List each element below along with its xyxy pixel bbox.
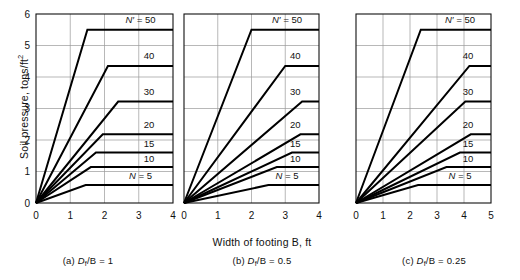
curve-label: 15: [290, 138, 301, 149]
curve-label: N = 5: [448, 170, 471, 181]
caption-symbol-a: D: [78, 255, 85, 266]
curve-label: 15: [144, 138, 155, 149]
curve-label: N′ = 50: [445, 14, 475, 25]
x-tick-label: 0: [33, 210, 39, 221]
curve-label: 20: [290, 119, 301, 130]
curve-label: N′ = 50: [125, 14, 155, 25]
x-tick-label: 3: [434, 210, 440, 221]
curve-label: N′ = 50: [272, 14, 302, 25]
x-tick-label: 1: [67, 210, 73, 221]
x-tick-label: 3: [136, 210, 142, 221]
plot-area-b: N′ = 504030201510N = 501234: [176, 0, 348, 232]
x-tick-label: 4: [461, 210, 467, 221]
x-tick-label: 0: [353, 210, 359, 221]
x-tick-label: 4: [316, 210, 322, 221]
x-tick-label: 5: [488, 210, 494, 221]
y-tick-label: 6: [24, 9, 30, 20]
chart-panel-c: N′ = 504030201510N = 5012345 (c) Df/B = …: [348, 0, 520, 280]
curve-label: 40: [290, 50, 301, 61]
curve-label: N = 5: [129, 170, 152, 181]
chart-panel-b: N′ = 504030201510N = 501234 Width of foo…: [176, 0, 348, 280]
chart-panel-a: N′ = 504030201510N = 5012340123456 Soil …: [0, 0, 176, 280]
caption-symbol-b: D: [248, 255, 255, 266]
curve-label: 30: [463, 86, 474, 97]
panel-caption-c: (c) Df/B = 0.25: [348, 255, 520, 266]
caption-prefix-b: (b): [233, 255, 245, 266]
caption-symbol-c: D: [417, 255, 424, 266]
caption-sub-b: f: [255, 260, 257, 267]
caption-rest-c: /B = 0.25: [426, 255, 466, 266]
caption-rest-a: /B = 1: [87, 255, 113, 266]
curve-label: 10: [290, 153, 301, 164]
curve-label: 40: [463, 50, 474, 61]
curve-label: 10: [144, 153, 155, 164]
panel-caption-a: (a) Df/B = 1: [0, 255, 176, 266]
curve-label: 30: [290, 86, 301, 97]
x-tick-label: 2: [407, 210, 413, 221]
caption-rest-b: /B = 0.5: [257, 255, 292, 266]
plot-area-c: N′ = 504030201510N = 5012345: [348, 0, 520, 232]
y-axis-title: Soil pressure, tons/ft2: [16, 22, 30, 192]
x-tick-label: 2: [102, 210, 108, 221]
y-tick-label: 0: [24, 198, 30, 209]
x-tick-label: 1: [380, 210, 386, 221]
caption-prefix-a: (a): [63, 255, 75, 266]
chart-svg-b: N′ = 504030201510N = 501234: [176, 0, 348, 232]
caption-sub-a: f: [85, 260, 87, 267]
curve-label: 20: [144, 119, 155, 130]
caption-prefix-c: (c): [402, 255, 414, 266]
chart-svg-c: N′ = 504030201510N = 5012345: [348, 0, 520, 232]
curve-label: N = 5: [275, 170, 298, 181]
curve-label: 10: [463, 153, 474, 164]
x-tick-label: 0: [181, 210, 187, 221]
x-axis-title: Width of footing B, ft: [176, 236, 348, 248]
panel-caption-b: (b) Df/B = 0.5: [176, 255, 348, 266]
caption-sub-c: f: [424, 260, 426, 267]
x-tick-label: 3: [282, 210, 288, 221]
soil-pressure-figure: N′ = 504030201510N = 5012340123456 Soil …: [0, 0, 520, 280]
curve-label: 40: [144, 50, 155, 61]
curve-label: 20: [463, 119, 474, 130]
x-tick-label: 1: [215, 210, 221, 221]
curve-label: 15: [463, 138, 474, 149]
x-tick-label: 2: [249, 210, 255, 221]
curve-label: 30: [144, 86, 155, 97]
